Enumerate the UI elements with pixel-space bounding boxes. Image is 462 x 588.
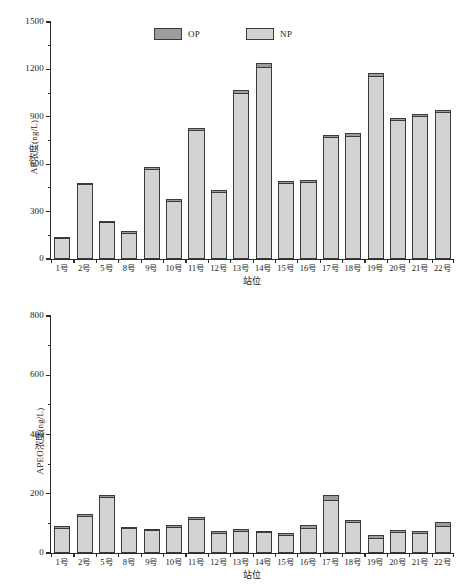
bar-17号	[323, 495, 339, 553]
x-axis-tick	[342, 553, 343, 557]
x-axis-tick	[409, 553, 410, 557]
bar-segment-npeo	[77, 516, 93, 553]
x-axis-tick-label: 2号	[78, 558, 91, 567]
legend-item-op: OP	[154, 28, 200, 40]
bar-13号	[233, 529, 249, 553]
x-axis-tick-label: 20号	[389, 264, 407, 273]
bar-segment-np	[390, 120, 406, 259]
bar-14号	[256, 63, 272, 259]
bar-22号	[435, 110, 451, 259]
x-axis-tick-label: 19号	[367, 264, 385, 273]
x-axis-tick	[118, 553, 119, 557]
x-axis-tick-label: 11号	[188, 558, 205, 567]
x-axis-tick-label: 22号	[434, 264, 452, 273]
bar-19号	[368, 535, 384, 553]
y-axis-tick-label: 400	[30, 430, 51, 439]
bar-5号	[99, 221, 115, 259]
bar-segment-np	[278, 183, 294, 259]
x-axis-tick	[230, 553, 231, 557]
bar-segment-npeo	[390, 532, 406, 553]
x-axis-tick-label: 1号	[56, 264, 69, 273]
y-axis-tick-minor	[48, 93, 51, 94]
bar-13号	[233, 90, 249, 259]
bar-segment-np	[188, 130, 204, 259]
bar-8号	[121, 527, 137, 553]
bar-segment-np	[99, 222, 115, 259]
bar-segment-npeo	[54, 528, 70, 553]
bar-18号	[345, 133, 361, 259]
bar-segment-np	[121, 233, 137, 259]
x-axis-tick	[208, 259, 209, 263]
x-axis-tick-label: 21号	[412, 264, 430, 273]
x-axis-tick-label: 5号	[100, 558, 113, 567]
bar-segment-np	[211, 192, 227, 259]
x-axis-tick-label: 13号	[233, 558, 251, 567]
x-axis-tick	[185, 553, 186, 557]
legend-item-np: NP	[246, 28, 292, 40]
y-axis-tick-label: 300	[30, 207, 51, 216]
x-axis-tick	[320, 553, 321, 557]
bar-segment-npeo	[233, 531, 249, 553]
x-axis-tick	[51, 553, 52, 557]
bar-segment-np	[144, 169, 160, 259]
x-axis-tick-label: 11号	[188, 264, 205, 273]
x-axis-tick-label: 18号	[345, 558, 363, 567]
x-axis-tick-label: 10号	[165, 558, 183, 567]
x-axis-tick	[141, 553, 142, 557]
x-axis-tick	[297, 553, 298, 557]
x-axis-tick	[387, 259, 388, 263]
x-axis-tick-label: 9号	[145, 558, 158, 567]
bar-2号	[77, 183, 93, 259]
bar-20号	[390, 530, 406, 553]
y-axis-tick-label: 600	[30, 159, 51, 168]
x-axis-tick-label: 21号	[412, 558, 430, 567]
bar-11号	[188, 128, 204, 259]
chart-panel-ap: AP浓度(ng/L) 0300600900120015001号2号5号8号9号1…	[0, 0, 462, 294]
bar-segment-npeo	[412, 533, 428, 553]
legend-ap: OP NP	[154, 28, 292, 40]
x-axis-tick-label: 15号	[277, 558, 295, 567]
bar-segment-np	[435, 112, 451, 259]
bar-10号	[166, 525, 182, 553]
legend-swatch-np	[246, 28, 274, 40]
x-axis-tick	[453, 259, 454, 263]
x-axis-tick	[320, 259, 321, 263]
x-axis-tick	[342, 259, 343, 263]
x-axis-tick-label: 2号	[78, 264, 91, 273]
x-axis-tick-label: 17号	[322, 558, 340, 567]
bar-16号	[300, 525, 316, 553]
y-axis-tick-label: 0	[39, 548, 51, 557]
y-axis-tick-minor	[48, 235, 51, 236]
x-axis-tick	[141, 259, 142, 263]
x-axis-tick-label: 22号	[434, 558, 452, 567]
x-axis-tick	[364, 259, 365, 263]
legend-label-np: NP	[280, 29, 292, 39]
x-axis-tick-label: 18号	[345, 264, 363, 273]
y-axis-tick-minor	[48, 523, 51, 524]
x-axis-tick-label: 16号	[300, 558, 318, 567]
x-axis-tick-label: 5号	[100, 264, 113, 273]
y-axis-tick-minor	[48, 464, 51, 465]
legend-label-op: OP	[188, 29, 200, 39]
x-axis-tick-label: 17号	[322, 264, 340, 273]
bar-10号	[166, 199, 182, 259]
bar-segment-npeo	[323, 500, 339, 553]
x-axis-tick	[432, 553, 433, 557]
x-axis-tick	[73, 259, 74, 263]
bar-12号	[211, 531, 227, 553]
bar-8号	[121, 231, 137, 259]
bar-segment-np	[54, 238, 70, 259]
y-axis-tick-label: 0	[39, 254, 51, 263]
x-axis-tick	[253, 259, 254, 263]
bar-segment-npeo	[256, 532, 272, 553]
y-axis-tick-minor	[48, 404, 51, 405]
x-axis-tick-label: 9号	[145, 264, 158, 273]
chart-panel-apeo: APEO浓度(ng/L) 02004006008001号2号5号8号9号10号1…	[0, 294, 462, 588]
x-axis-tick-label: 14号	[255, 558, 273, 567]
bar-segment-npeo	[121, 528, 137, 553]
bar-9号	[144, 529, 160, 553]
x-axis-tick	[387, 553, 388, 557]
x-axis-tick	[96, 553, 97, 557]
plot-area-apeo: 02004006008001号2号5号8号9号10号11号12号13号14号15…	[50, 316, 454, 554]
x-axis-tick-label: 13号	[233, 264, 251, 273]
